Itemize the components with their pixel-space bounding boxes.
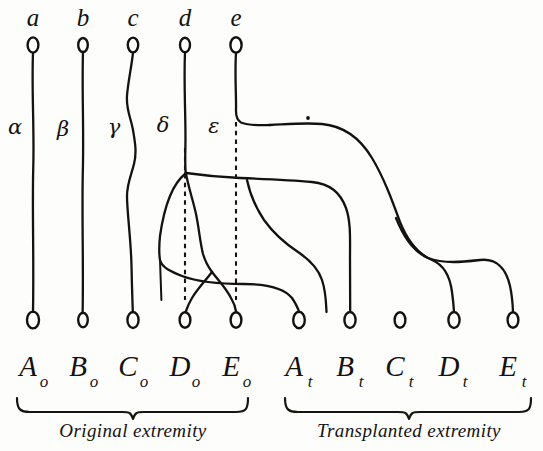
- svg-text:A: A: [283, 350, 303, 382]
- endplate-loop-Eo: [231, 312, 242, 328]
- svg-text:C: C: [118, 350, 138, 382]
- caption-original-extremity: Original extremity: [59, 420, 207, 441]
- terminal-label-Et: E t: [498, 350, 527, 391]
- endplate-loop-Co: [127, 312, 138, 328]
- endplate-loop-Bo: [78, 313, 88, 327]
- greek-label-gamma: γ: [108, 115, 121, 139]
- svg-text:B: B: [336, 350, 354, 382]
- source-loop-c: [128, 38, 138, 53]
- fiber-b: [82, 52, 83, 313]
- endplate-loop-Do: [180, 312, 191, 328]
- svg-text:C: C: [385, 350, 405, 382]
- source-label-c: c: [127, 4, 138, 31]
- fiber-e-to-Et: [396, 218, 513, 312]
- ink-speck: [306, 116, 310, 120]
- endplate-loop-Ct: [395, 312, 406, 328]
- endplate-loop-Et: [508, 312, 519, 328]
- terminal-label-Co: C o: [118, 350, 148, 391]
- source-label-d: d: [179, 4, 192, 31]
- terminal-label-Do: D o: [169, 350, 201, 391]
- endplate-loop-Ao: [27, 312, 39, 329]
- svg-text:E: E: [221, 350, 240, 382]
- svg-text:t: t: [522, 372, 528, 391]
- terminal-label-At: A t: [283, 350, 313, 391]
- svg-text:D: D: [169, 350, 191, 382]
- svg-text:o: o: [192, 372, 201, 391]
- svg-text:D: D: [438, 350, 460, 382]
- svg-text:t: t: [463, 372, 469, 391]
- original-endplate-loops: [27, 312, 241, 329]
- greek-label-alpha: α: [8, 115, 22, 139]
- fiber-d-descending: [186, 173, 212, 273]
- terminal-label-Bo: B o: [69, 350, 98, 391]
- svg-text:E: E: [498, 350, 517, 382]
- fiber-d-trunk: [185, 53, 186, 173]
- terminal-label-Bt: B t: [336, 350, 364, 391]
- greek-label-beta: β: [56, 117, 69, 141]
- fiber-e-stub-left: [160, 260, 161, 300]
- svg-text:o: o: [90, 372, 99, 391]
- svg-text:B: B: [69, 350, 87, 382]
- brace-transplanted: [285, 398, 531, 419]
- brace-original: [17, 398, 248, 419]
- source-loop-d: [180, 38, 190, 52]
- greek-label-delta: δ: [157, 113, 170, 137]
- svg-text:o: o: [243, 372, 252, 391]
- nerve-transplantation-figure: a b c d e α β γ δ ε A o B o C o: [0, 0, 543, 451]
- transplanted-terminal-label-group: A t B t C t D t E t: [283, 350, 527, 391]
- source-loop-e: [230, 37, 241, 53]
- greek-label-epsilon: ε: [208, 114, 219, 138]
- source-label-e: e: [230, 4, 241, 31]
- fiber-c: [127, 53, 136, 312]
- svg-text:o: o: [140, 372, 149, 391]
- caption-transplanted-extremity: Transplanted extremity: [317, 420, 501, 441]
- source-loop-b: [78, 38, 88, 52]
- fiber-a: [33, 53, 34, 312]
- terminal-label-Ct: C t: [385, 350, 414, 391]
- source-label-a: a: [27, 4, 40, 31]
- fiber-e-to-At: [159, 173, 299, 312]
- source-label-b: b: [77, 4, 90, 31]
- fiber-fork-to-Eo: [212, 272, 236, 312]
- endplate-loop-Bt: [344, 312, 355, 328]
- fiber-e-trunk: [235, 53, 270, 125]
- svg-text:t: t: [409, 372, 415, 391]
- greek-label-group: α β γ δ ε: [8, 113, 220, 141]
- endplate-loop-At: [293, 312, 305, 328]
- endplate-loop-Dt: [448, 312, 459, 328]
- original-terminal-label-group: A o B o C o D o E o: [17, 350, 251, 391]
- source-loops: [28, 37, 242, 53]
- source-loop-a: [28, 37, 39, 52]
- svg-text:t: t: [359, 372, 365, 391]
- source-label-group: a b c d e: [27, 4, 242, 31]
- fiber-e-to-Dt: [270, 123, 454, 312]
- svg-text:A: A: [17, 350, 37, 382]
- terminal-label-Eo: E o: [221, 350, 251, 391]
- svg-text:o: o: [40, 372, 49, 391]
- svg-text:t: t: [308, 372, 314, 391]
- diagram-canvas: a b c d e α β γ δ ε A o B o C o: [0, 0, 543, 451]
- terminal-label-Ao: A o: [17, 350, 48, 391]
- terminal-label-Dt: D t: [438, 350, 469, 391]
- transplanted-endplate-loops: [293, 312, 518, 328]
